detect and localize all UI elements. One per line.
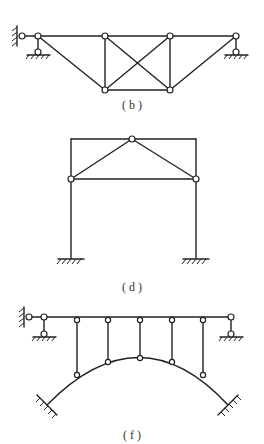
figure-label-b: ( b ) [122, 98, 142, 112]
figure-label-f: ( f ) [123, 428, 141, 442]
ground-hatch-icon [32, 337, 56, 341]
wall-support-icon [12, 26, 17, 46]
ground-hatch-icon [219, 337, 243, 341]
wall-support-icon [19, 307, 24, 327]
structural-diagrams: ( b ) [0, 0, 264, 444]
figure-b-truss: ( b ) [12, 26, 248, 112]
arch-rib [47, 358, 228, 406]
figure-f-arch: ( f ) [19, 307, 243, 442]
hinge-icons [68, 136, 199, 182]
hinge-icons [19, 33, 239, 93]
fixed-support-icon [57, 259, 84, 264]
figure-label-d: ( d ) [122, 280, 142, 294]
figure-d-frame: ( d ) [57, 136, 209, 294]
fixed-support-icon [182, 259, 209, 264]
